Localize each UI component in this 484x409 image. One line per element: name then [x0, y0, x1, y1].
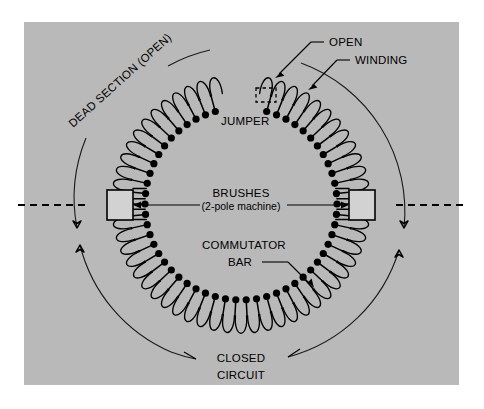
leader-open-arrow-line	[279, 42, 311, 74]
winding-loop	[260, 78, 273, 96]
winding-loop	[210, 78, 223, 96]
commutator-bar-dot	[325, 241, 332, 248]
label-commutator-line1: COMMUTATOR	[202, 239, 286, 251]
commutator-bar-dot	[333, 200, 340, 207]
commutator-bar-dot	[146, 170, 153, 177]
winding-loop	[162, 290, 178, 308]
commutator-bar-dot	[202, 111, 209, 118]
brush-arrow-right-head	[341, 201, 349, 208]
commutator-bar-dot	[328, 231, 335, 238]
winding-loop	[142, 272, 160, 289]
commutator-bar-dot	[333, 190, 340, 197]
arc-closed-circuit-bottom-left	[171, 352, 196, 359]
winding-loop	[271, 308, 285, 326]
commutator-bar-dot	[212, 108, 219, 115]
winding-loop	[314, 109, 331, 126]
label-closed-line2: CIRCUIT	[217, 369, 265, 381]
winding-loop	[197, 308, 211, 326]
commutator-bar-dot	[142, 211, 149, 218]
commutator-bar-dot	[168, 266, 175, 273]
commutator-bar-dot	[291, 121, 298, 128]
commutator-bar-dot	[328, 170, 335, 177]
brush-arrow-left-head	[133, 201, 141, 208]
commutator-bar-dot	[232, 296, 239, 303]
commutator-bar-dot	[144, 180, 151, 187]
winding-loop	[248, 315, 260, 333]
commutator-bar-dot	[300, 127, 307, 134]
commutator-bar-dot	[150, 160, 157, 167]
winding-loop	[116, 166, 134, 179]
commutator-bar-dot	[320, 151, 327, 158]
label-brushes: BRUSHES	[213, 187, 270, 199]
arc-dead-section-upper-left	[74, 138, 86, 228]
commutator-bar-dot	[314, 142, 321, 149]
winding-loop	[314, 281, 331, 298]
commutator-bar-dot	[291, 280, 298, 287]
commutator-bar-dot	[253, 295, 260, 302]
label-dead-section: DEAD SECTION (OPEN)	[66, 31, 173, 129]
commutator-bar-dot	[192, 285, 199, 292]
commutator-diagram: DEAD SECTION (OPEN) OPEN WINDING JUMPER …	[0, 0, 484, 409]
commutator-bar-dot	[282, 116, 289, 123]
label-closed-line1: CLOSED	[217, 352, 266, 364]
commutator-bar-dot	[307, 134, 314, 141]
winding-loop	[116, 229, 134, 242]
commutator-bar-dot	[222, 295, 229, 302]
winding-loop	[197, 81, 211, 99]
winding-loop	[151, 109, 168, 126]
commutator-bar-dot	[161, 259, 168, 266]
commutator-bar-dot	[184, 280, 191, 287]
commutator-bar-dot	[141, 200, 148, 207]
brush-left	[107, 190, 133, 220]
commutator-bar-dot	[243, 296, 250, 303]
commutator-bar-dot	[333, 211, 340, 218]
figure-root: DEAD SECTION (OPEN) OPEN WINDING JUMPER …	[0, 0, 484, 409]
commutator-bar-dot	[175, 274, 182, 281]
arrowhead-right-up	[395, 250, 403, 257]
winding-loop	[323, 119, 341, 136]
commutator-bar-dot	[168, 134, 175, 141]
label-winding: WINDING	[355, 54, 408, 66]
label-brushes-sub: (2-pole machine)	[202, 200, 281, 212]
brush-right	[349, 190, 375, 220]
commutator-bar-dot	[282, 285, 289, 292]
commutator-bar-dot	[212, 293, 219, 300]
commutator-bar-dot	[307, 266, 314, 273]
winding-loop	[347, 166, 365, 179]
commutator-bar-dot	[320, 250, 327, 257]
winding-loop	[142, 119, 160, 136]
commutator-bar-dot	[263, 293, 270, 300]
winding-loop	[260, 312, 273, 330]
winding-loop	[323, 272, 341, 289]
commutator-bar-dot	[273, 111, 280, 118]
winding-loop	[210, 312, 223, 330]
commutator-bar-dot	[314, 259, 321, 266]
commutator-bar-dot	[161, 142, 168, 149]
commutator-bar-dot	[142, 190, 149, 197]
commutator-bar-dot	[331, 221, 338, 228]
commutator-bar-dot	[175, 127, 182, 134]
winding-loop	[235, 316, 246, 333]
winding-loop	[223, 315, 235, 333]
leader-winding-arrow-line	[312, 60, 337, 86]
commutator-bar-dot	[325, 160, 332, 167]
arrowhead-left-down	[73, 221, 81, 228]
arrowhead-left-up	[76, 245, 84, 252]
winding-loop	[304, 101, 320, 119]
winding-loop	[162, 101, 178, 119]
commutator-bar-dot	[144, 221, 151, 228]
label-open: OPEN	[329, 36, 362, 48]
winding-loop	[271, 81, 285, 99]
commutator-bar-dot	[331, 180, 338, 187]
commutator-bar-dot	[184, 121, 191, 128]
winding-loop	[151, 281, 168, 298]
commutator-bar-dot	[146, 231, 153, 238]
winding-loop	[347, 229, 365, 242]
commutator-bar-dot	[192, 116, 199, 123]
commutator-bar-dot	[155, 250, 162, 257]
commutator-bar-dot	[155, 151, 162, 158]
commutator-bar-dot	[150, 241, 157, 248]
leader-commutator-arrow-line	[288, 262, 310, 284]
label-jumper: JUMPER	[221, 115, 269, 127]
commutator-bar-dot	[273, 290, 280, 297]
